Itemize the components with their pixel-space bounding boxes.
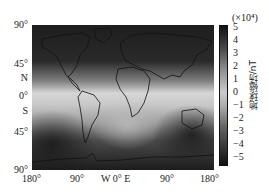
colorbar-tick: −3 bbox=[233, 126, 244, 136]
magnetic-field-map bbox=[32, 25, 214, 170]
x-tick-90w: 90° bbox=[70, 174, 84, 184]
colorbar-tick: 0 bbox=[233, 87, 238, 97]
y-tick-90n: 90° bbox=[0, 20, 28, 30]
x-tick-180w: 180° bbox=[22, 174, 41, 184]
y-label-north: N bbox=[0, 73, 28, 83]
colorbar-tick: −5 bbox=[233, 152, 244, 162]
map-heatmap bbox=[32, 25, 214, 170]
colorbar-tick: 5 bbox=[233, 22, 238, 32]
y-tick-0: 0° bbox=[0, 91, 28, 101]
colorbar-tick: 3 bbox=[233, 48, 238, 58]
y-label-south: S bbox=[0, 106, 28, 116]
colorbar-tick: 2 bbox=[233, 61, 238, 71]
colorbar-tick: −2 bbox=[233, 113, 244, 123]
x-tick-0: W 0° E bbox=[101, 174, 130, 184]
colorbar-tick: −1 bbox=[233, 100, 244, 110]
y-tick-45s: 45° bbox=[0, 127, 28, 137]
x-tick-90e: 90° bbox=[160, 174, 174, 184]
colorbar-unit-label: 地球磁场/nT bbox=[246, 60, 258, 110]
colorbar-tick: 4 bbox=[233, 35, 238, 45]
colorbar-tick: −4 bbox=[233, 139, 244, 149]
x-tick-180e: 180° bbox=[200, 174, 219, 184]
colorbar-tick: 1 bbox=[233, 74, 238, 84]
colorbar bbox=[219, 25, 228, 166]
y-tick-45n: 45° bbox=[0, 59, 28, 69]
